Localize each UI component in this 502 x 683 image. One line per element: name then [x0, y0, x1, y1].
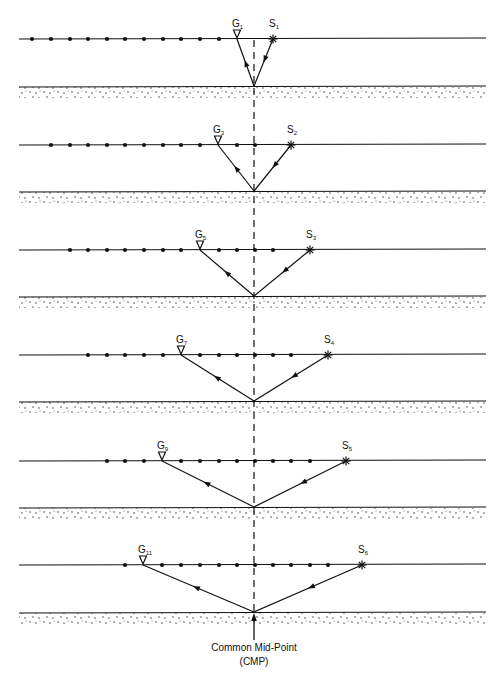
geophone-dot — [68, 37, 72, 41]
ray-arrow-icon — [214, 376, 221, 382]
geophone-dot — [198, 563, 202, 567]
geophone-dot — [123, 248, 127, 252]
ray-arrow-icon — [300, 479, 307, 484]
geophone-dot — [105, 248, 109, 252]
geophone-dot — [105, 37, 109, 41]
geophone-dot — [179, 563, 183, 567]
geophone-dot — [142, 353, 146, 357]
reflector-stipple — [19, 297, 486, 308]
cmp-label: Common Mid-Point — [211, 642, 297, 653]
geophone-dot — [179, 37, 183, 41]
geophone-dot — [253, 143, 257, 147]
source-label-subscript: 5 — [349, 446, 353, 452]
geophone-dot — [235, 143, 239, 147]
geophone-dot — [123, 143, 127, 147]
geophone-dot — [289, 563, 293, 567]
geophone-dot — [235, 563, 239, 567]
panel-5: G9S5 — [19, 440, 486, 519]
geophone-dot — [142, 143, 146, 147]
ray-arrow-icon — [203, 482, 210, 487]
geophone-dot — [142, 37, 146, 41]
geophone-dot — [289, 353, 293, 357]
reflector-line — [19, 191, 486, 192]
geophone-dot — [86, 353, 90, 357]
geophone-dot — [217, 248, 221, 252]
ray-arrow-icon — [193, 586, 200, 591]
cmp-diagram: G1S1G3S2G5S3G7S4G9S5G11S6 Common Mid-Poi… — [0, 0, 502, 683]
source-label-subscript: 3 — [313, 235, 317, 241]
geophone-dot — [86, 143, 90, 147]
reflector-stipple — [19, 402, 486, 413]
geophone-dot — [105, 459, 109, 463]
surface-line — [19, 564, 486, 565]
reflector-line — [19, 86, 486, 87]
receiver-label: G7 — [176, 334, 188, 346]
geophone-dot — [105, 353, 109, 357]
geophone-dot — [198, 353, 202, 357]
panel-2: G3S2 — [19, 124, 486, 203]
source-label-subscript: 6 — [365, 550, 369, 556]
receiver-label-subscript: 9 — [165, 446, 169, 452]
geophone-dot — [308, 563, 312, 567]
source-label: S2 — [287, 124, 298, 136]
panel-4: G7S4 — [19, 334, 486, 413]
ray-arrow-icon — [308, 583, 315, 588]
panel-3: G5S3 — [19, 229, 486, 308]
geophone-dot — [179, 143, 183, 147]
geophone-dot — [235, 353, 239, 357]
geophone-dot — [123, 459, 127, 463]
reflector-stipple — [19, 192, 486, 203]
panel-1: G1S1 — [19, 18, 486, 98]
source-star-icon — [324, 351, 333, 360]
geophone-dot — [253, 563, 257, 567]
receiver-label: G5 — [195, 229, 207, 241]
receiver-triangle-icon — [178, 346, 185, 354]
geophone-dot — [271, 353, 275, 357]
geophone-dot — [49, 143, 53, 147]
source-label-subscript: 2 — [294, 130, 298, 136]
geophone-dot — [161, 37, 165, 41]
reflector-line — [19, 507, 486, 508]
geophone-dot — [235, 459, 239, 463]
cmp-label-abbrev: (CMP) — [240, 656, 269, 667]
source-label-subscript: 4 — [331, 340, 335, 346]
geophone-dot — [179, 459, 183, 463]
source-label: S4 — [324, 334, 335, 346]
geophone-dot — [161, 143, 165, 147]
source-star-icon — [358, 561, 367, 570]
receiver-triangle-icon — [234, 30, 241, 38]
geophone-dot — [217, 459, 221, 463]
receiver-label-subscript: 7 — [184, 340, 188, 346]
geophone-dot — [198, 143, 202, 147]
geophone-dot — [105, 143, 109, 147]
reflector-line — [19, 612, 486, 613]
reflector-line — [19, 296, 486, 297]
receiver-label-subscript: 1 — [240, 24, 244, 30]
receiver-label: G11 — [138, 544, 153, 556]
geophone-dot — [289, 459, 293, 463]
geophone-dot — [271, 563, 275, 567]
receiver-triangle-icon — [159, 452, 166, 460]
receiver-label: G1 — [232, 18, 244, 30]
geophone-dot — [217, 563, 221, 567]
geophone-dot — [123, 353, 127, 357]
receiver-label-subscript: 5 — [203, 235, 207, 241]
ray-arrow-icon — [245, 60, 250, 67]
geophone-dot — [68, 143, 72, 147]
geophone-dot — [123, 37, 127, 41]
source-star-icon — [306, 246, 315, 255]
source-label: S6 — [358, 544, 369, 556]
receiver-triangle-icon — [197, 241, 204, 249]
receiver-triangle-icon — [215, 136, 222, 144]
source-label: S3 — [306, 229, 317, 241]
geophone-dot — [68, 248, 72, 252]
geophone-dot — [86, 248, 90, 252]
source-star-icon — [269, 35, 278, 44]
source-label-subscript: 1 — [276, 24, 280, 30]
panel-6: G11S6 — [19, 544, 486, 624]
panels-group: G1S1G3S2G5S3G7S4G9S5G11S6 — [19, 18, 486, 624]
reflector-stipple — [19, 508, 486, 519]
geophone-dot — [30, 37, 34, 41]
geophone-dot — [161, 353, 165, 357]
reflector-stipple — [19, 87, 486, 98]
